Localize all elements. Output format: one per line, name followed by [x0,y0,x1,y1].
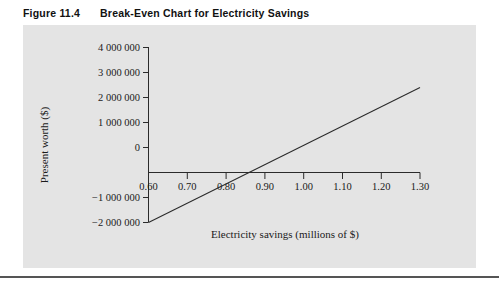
x-tick-label: 1.30 [411,181,429,192]
y-tick-label: 3 000 000 [98,67,140,78]
x-tick-label: 0.60 [139,181,157,192]
x-tick-label: 1.20 [372,181,390,192]
figure-bottom-rule [0,276,499,278]
x-tick-label: 0.70 [178,181,196,192]
x-tick-label: 1.00 [295,181,313,192]
y-tick-label: 4 000 000 [98,42,140,53]
x-axis-title: Electricity savings (millions of $) [211,228,359,241]
figure-panel: Present worth ($) 4 000 000 3 000 000 2 … [23,25,476,268]
y-tick-label: 0 [135,142,140,153]
y-tick-label: −1 000 000 [92,192,140,203]
figure-container: Figure 11.4Break-Even Chart for Electric… [0,0,499,287]
figure-number: Figure 11.4 [23,7,80,19]
break-even-chart: Present worth ($) 4 000 000 3 000 000 2 … [23,25,476,268]
y-tick-label: 1 000 000 [98,117,140,128]
y-tick-label: −2 000 000 [92,217,140,228]
figure-title: Break-Even Chart for Electricity Savings [100,7,309,19]
series-line-present-worth [149,88,421,223]
figure-caption: Figure 11.4Break-Even Chart for Electric… [23,7,309,19]
y-axis-title: Present worth ($) [38,106,51,183]
x-tick-label: 1.10 [333,181,351,192]
x-tick-label: 0.90 [256,181,274,192]
y-tick-label: 2 000 000 [98,92,140,103]
